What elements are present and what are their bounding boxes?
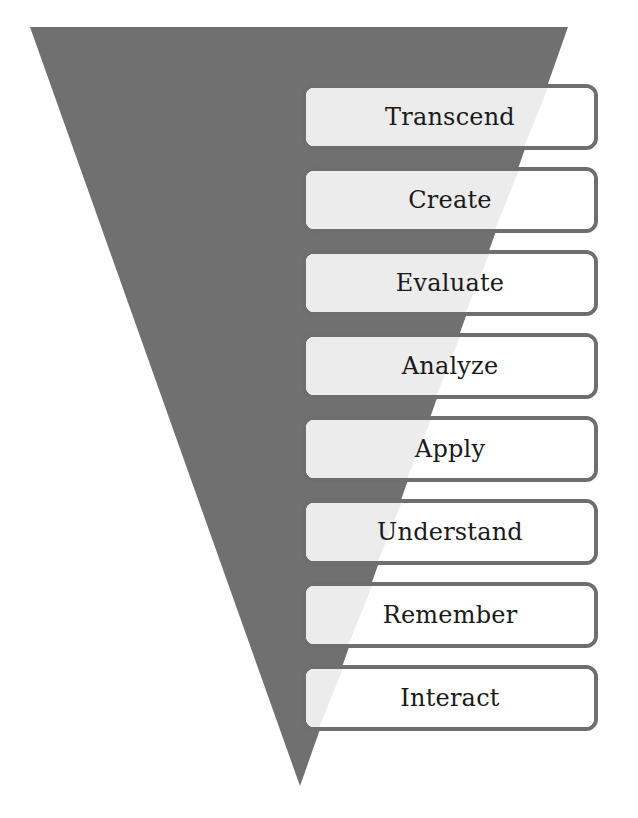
level-label: Remember	[383, 601, 518, 629]
level-label: Understand	[377, 518, 523, 546]
level-transcend: Transcend	[302, 84, 598, 150]
level-label: Apply	[415, 435, 485, 463]
level-understand: Understand	[302, 499, 598, 565]
level-label: Create	[408, 186, 491, 214]
level-label: Transcend	[385, 103, 515, 131]
level-create: Create	[302, 167, 598, 233]
level-analyze: Analyze	[302, 333, 598, 399]
level-apply: Apply	[302, 416, 598, 482]
level-stack: Transcend Create Evaluate Analyze Apply …	[0, 0, 638, 818]
level-evaluate: Evaluate	[302, 250, 598, 316]
level-label: Analyze	[402, 352, 499, 380]
level-remember: Remember	[302, 582, 598, 648]
level-label: Interact	[400, 684, 499, 712]
level-label: Evaluate	[396, 269, 504, 297]
level-interact: Interact	[302, 665, 598, 731]
